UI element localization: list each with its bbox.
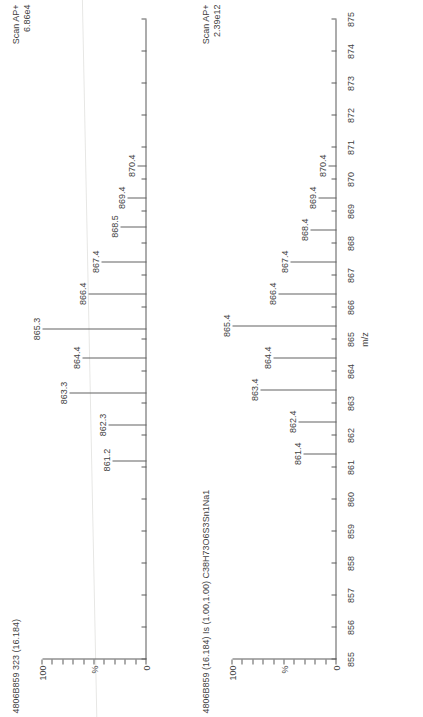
- mass-peak: [278, 293, 336, 294]
- x-axis-tick-label: 870: [346, 164, 355, 194]
- x-axis-tick-label: 859: [346, 516, 355, 546]
- x-axis-tick: [331, 402, 336, 403]
- x-axis-tick-label: 871: [346, 132, 355, 162]
- mass-peak: [101, 261, 146, 262]
- mass-peak-label: 862.4: [288, 410, 297, 433]
- mass-peak-label: 861.4: [293, 442, 302, 465]
- x-axis-tick: [331, 498, 336, 499]
- mass-peak-label: 862.3: [98, 413, 107, 436]
- x-axis-tick-label: 860: [346, 484, 355, 514]
- scan-intensity-observed: 6.86e4: [21, 4, 32, 44]
- x-axis-tick-label: 864: [346, 356, 355, 386]
- mass-peak-label: 865.4: [222, 314, 231, 337]
- x-axis-tick: [331, 178, 336, 179]
- y-axis-tick: [135, 659, 136, 664]
- mass-peak-label: 870.4: [318, 154, 327, 177]
- x-axis-tick-label: 862: [346, 420, 355, 450]
- panel-scan-info-model: Scan AP+ 2.39e12: [200, 4, 222, 44]
- scan-intensity-model: 2.39e12: [211, 4, 222, 44]
- x-axis-tick-label: 875: [346, 4, 355, 34]
- x-axis-tick: [141, 562, 146, 563]
- mass-peak: [318, 197, 336, 198]
- y-axis-tick: [283, 659, 284, 664]
- x-axis-tick-label: 857: [346, 580, 355, 610]
- y-axis-tick-label: 100: [38, 665, 47, 693]
- panel-title-observed: 4806B859 323 (16.184): [10, 618, 21, 713]
- x-axis-tick-label: 874: [346, 36, 355, 66]
- x-axis-tick: [141, 466, 146, 467]
- mass-peak: [310, 229, 336, 230]
- x-axis-tick-label: 855: [346, 644, 355, 674]
- x-axis-tick-label: 868: [346, 228, 355, 258]
- y-axis-tick: [293, 659, 294, 664]
- x-axis-tick-label: 861: [346, 452, 355, 482]
- mass-peak: [232, 325, 336, 326]
- mass-peak-label: 864.4: [263, 346, 272, 369]
- x-axis-tick: [331, 530, 336, 531]
- y-axis-tick: [252, 659, 253, 664]
- plot-area-observed: 100%0 861.2862.3863.3864.4865.3866.4867.…: [42, 19, 146, 659]
- x-axis-tick: [141, 338, 146, 339]
- mass-peak-label: 866.4: [268, 282, 277, 305]
- mass-peak-label: 868.5: [110, 215, 119, 238]
- x-axis-tick-label: 856: [346, 612, 355, 642]
- mass-peak: [328, 165, 336, 166]
- x-axis-tick: [331, 434, 336, 435]
- mass-peak: [137, 165, 146, 166]
- x-axis-tick: [141, 306, 146, 307]
- x-axis-tick-label: 873: [346, 68, 355, 98]
- x-axis-tick: [331, 82, 336, 83]
- y-axis-tick: [241, 659, 242, 664]
- x-axis-tick: [141, 146, 146, 147]
- mass-peak: [120, 226, 146, 227]
- mass-peak: [42, 328, 146, 329]
- y-axis-tick: [124, 659, 125, 664]
- mass-peak: [108, 424, 146, 425]
- spectrum-panel-observed: 4806B859 323 (16.184) Scan AP+ 6.86e4 10…: [8, 0, 194, 717]
- x-axis-tick-label: 867: [346, 260, 355, 290]
- x-axis-tick: [331, 594, 336, 595]
- x-axis-tick: [141, 178, 146, 179]
- y-axis-tick: [325, 659, 326, 664]
- mass-peak-label: 861.2: [102, 448, 111, 471]
- mass-peak: [127, 197, 146, 198]
- spectrum-panel-model: 4806B859 (16.184) Is (1.00,1.00) C38H73O…: [198, 0, 384, 717]
- mass-peak: [112, 460, 146, 461]
- x-axis-tick: [141, 658, 146, 659]
- x-axis-tick: [331, 658, 336, 659]
- x-axis-tick: [141, 18, 146, 19]
- x-axis-tick: [141, 210, 146, 211]
- y-axis-tick-label: 0: [142, 665, 151, 693]
- y-axis-tick: [145, 659, 146, 664]
- x-axis-tick: [331, 274, 336, 275]
- mass-peak: [273, 357, 336, 358]
- y-axis-tick: [314, 659, 315, 664]
- mass-peak-label: 868.4: [300, 218, 309, 241]
- x-axis-tick: [141, 402, 146, 403]
- x-axis-tick: [331, 306, 336, 307]
- x-axis-tick-label: 869: [346, 196, 355, 226]
- y-axis-tick: [304, 659, 305, 664]
- y-axis-tick: [62, 659, 63, 664]
- mass-peak: [260, 389, 336, 390]
- x-axis-tick: [331, 146, 336, 147]
- x-axis-tick-label: 865: [346, 324, 355, 354]
- y-axis-tick: [114, 659, 115, 664]
- mass-peak: [69, 392, 146, 393]
- y-axis-tick: [72, 659, 73, 664]
- x-axis-tick: [141, 498, 146, 499]
- x-axis-tick: [141, 274, 146, 275]
- mass-peak: [82, 357, 146, 358]
- y-axis-tick: [335, 659, 336, 664]
- x-axis-tick: [331, 338, 336, 339]
- y-axis-tick: [231, 659, 232, 664]
- y-axis-tick: [93, 659, 94, 664]
- mass-peak-label: 863.3: [59, 381, 68, 404]
- y-axis-tick: [273, 659, 274, 664]
- mass-peak: [298, 421, 336, 422]
- mass-peak-label: 867.4: [91, 250, 100, 273]
- mass-peak-label: 863.4: [250, 378, 259, 401]
- x-axis-tick: [141, 434, 146, 435]
- x-axis-tick: [141, 594, 146, 595]
- x-axis-tick: [331, 18, 336, 19]
